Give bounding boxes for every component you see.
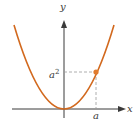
x-axis-arrow-icon xyxy=(118,106,126,112)
point-y-exponent: 2 xyxy=(55,68,59,76)
y-axis-arrow-icon xyxy=(61,20,67,28)
x-axis-label: x xyxy=(127,104,133,114)
point-x-label: a xyxy=(93,111,99,121)
point-a-a2 xyxy=(93,69,98,74)
y-axis-label: y xyxy=(60,2,66,12)
parabola-graph xyxy=(0,0,139,121)
parabola-figure: y x a a2 xyxy=(0,0,139,121)
point-y-label: a2 xyxy=(49,67,59,80)
